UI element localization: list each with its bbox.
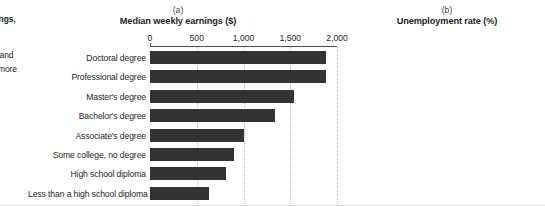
bar [150, 51, 326, 64]
x-axis-a-gridline [337, 47, 339, 204]
x-axis-origin-tick-a [150, 43, 151, 47]
bar [150, 187, 209, 200]
bar [150, 109, 275, 122]
bar [150, 70, 326, 83]
bar [150, 90, 294, 103]
x-axis-a-tick-label: 2,000 [326, 33, 348, 43]
bar [150, 148, 234, 161]
plot-area-earnings: 05001,0001,5002,000 [150, 46, 337, 204]
bar [150, 129, 244, 142]
x-axis-a-tick-label: 0 [148, 33, 153, 43]
figure-container: rnings, , and r more Doctoral degreeProf… [0, 0, 545, 206]
x-axis-a-tick-label: 1,000 [233, 33, 255, 43]
panel-a-title: Median weekly earnings ($) [8, 16, 348, 26]
panel-b-tag: (b) [352, 5, 542, 15]
panel-b-title: Unemployment rate (%) [352, 16, 542, 26]
panel-a-tag: (a) [8, 5, 348, 15]
x-axis-a-tick-label: 1,500 [279, 33, 301, 43]
bar [150, 167, 226, 180]
x-axis-a-tick-label: 500 [190, 33, 204, 43]
bottom-divider [0, 205, 545, 206]
panel-unemployment-rate: (b) Unemployment rate (%) 024681012 [352, 0, 545, 206]
panel-median-weekly-earnings: (a) Median weekly earnings ($) 05001,000… [0, 0, 352, 206]
